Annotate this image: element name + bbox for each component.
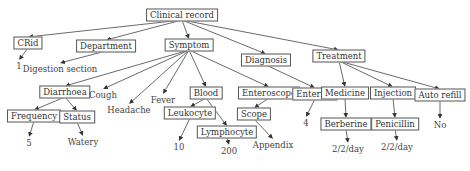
- node-autorefill: Auto refill: [414, 89, 465, 102]
- edge-treatment-autorefill: [339, 61, 439, 89]
- node-medicine: Medicine: [321, 87, 369, 100]
- node-treatment: Treatment: [312, 50, 365, 63]
- leaf-dose2: 2/2/day: [381, 142, 413, 153]
- node-status: Status: [59, 111, 95, 124]
- edge-crid-one: [20, 48, 28, 59]
- edge-status-watery: [77, 122, 83, 135]
- leaf-dose1: 2/2/day: [332, 144, 364, 155]
- leaf-one: 1: [16, 61, 21, 72]
- node-root: Clinical record: [146, 9, 218, 22]
- leaf-cough: Cough: [89, 90, 117, 101]
- edge-symptom-cough: [104, 50, 189, 89]
- edge-symptom-blood: [189, 50, 206, 86]
- node-blood: Blood: [190, 87, 223, 100]
- node-frequency: Frequency: [7, 110, 61, 123]
- edge-root-dept: [107, 20, 182, 40]
- edge-treatment-medicine: [339, 61, 345, 86]
- edge-injection-penicillin: [393, 98, 395, 117]
- node-penicillin: Penicillin: [371, 118, 419, 131]
- edge-root-crid: [29, 20, 182, 37]
- leaf-five: 5: [26, 138, 31, 149]
- leaf-four: 4: [303, 118, 308, 129]
- edge-frequency-five: [29, 121, 34, 136]
- node-diarrhoea: Diarrhoea: [39, 86, 90, 99]
- leaf-digest: Digestion section: [23, 64, 98, 75]
- leaf-watery: Watery: [68, 137, 98, 148]
- edge-dept-digest: [61, 51, 106, 63]
- node-scope: Scope: [237, 108, 271, 121]
- node-leukocyte: Leukocyte: [164, 107, 216, 120]
- node-injection: Injection: [370, 87, 416, 100]
- node-crid: CRid: [13, 37, 42, 50]
- node-dept: Department: [76, 40, 136, 53]
- leaf-appendix: Appendix: [253, 140, 293, 151]
- node-symptom: Symptom: [165, 39, 214, 52]
- node-lymphocyte: Lymphocyte: [197, 126, 257, 139]
- edge-diagnosis-enteritis: [266, 65, 314, 88]
- edge-berberine-dose1: [346, 129, 348, 142]
- edge-leukocyte-ten: [179, 118, 190, 140]
- edge-medicine-berberine: [345, 98, 346, 117]
- leaf-twohundred: 200: [221, 146, 237, 157]
- edge-enteritis-four: [306, 99, 315, 116]
- node-diagnosis: Diagnosis: [241, 54, 291, 67]
- leaf-headache: Headache: [107, 105, 150, 116]
- edge-penicillin-dose2: [395, 129, 397, 140]
- edge-diarrhoea-status: [65, 97, 76, 110]
- node-enteroscope: Enteroscope: [238, 87, 300, 100]
- leaf-no: No: [434, 120, 447, 131]
- leaf-ten: 10: [174, 142, 185, 153]
- clinical-record-tree: Clinical recordCRid1DepartmentDigestion …: [0, 0, 470, 171]
- node-berberine: Berberine: [320, 118, 371, 131]
- edge-diarrhoea-frequency: [35, 97, 65, 110]
- leaf-fever: Fever: [151, 95, 175, 106]
